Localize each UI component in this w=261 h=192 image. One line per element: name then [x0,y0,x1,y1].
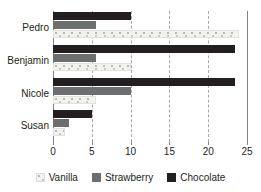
category-label-nicole: Nicole [0,88,49,99]
bar-groups [53,11,247,142]
legend-item-strawberry[interactable]: Strawberry [92,172,153,183]
tick-mark-15 [169,142,170,145]
category-label-susan: Susan [0,120,49,131]
category-label-benjamin: Benjamin [0,55,49,66]
strawberry-swatch [92,173,101,182]
tick-label-5: 5 [89,146,95,157]
bar-chocolate-benjamin[interactable] [53,45,235,53]
vanilla-swatch [36,173,45,182]
tick-mark-5 [92,142,93,145]
legend-item-chocolate[interactable]: Chocolate [167,172,225,183]
bar-group [53,45,247,74]
legend-label-vanilla: Vanilla [49,172,78,183]
legend-label-strawberry: Strawberry [105,172,153,183]
bar-chocolate-nicole[interactable] [53,78,235,86]
tick-mark-0 [53,142,54,145]
tick-label-0: 0 [50,146,56,157]
bar-strawberry-susan[interactable] [53,119,69,127]
bar-vanilla-pedro[interactable] [53,30,239,38]
bar-chocolate-susan[interactable] [53,110,92,118]
chart-legend: VanillaStrawberryChocolate [0,168,261,186]
legend-label-chocolate: Chocolate [180,172,225,183]
bar-strawberry-pedro[interactable] [53,21,96,29]
bar-strawberry-benjamin[interactable] [53,54,96,62]
bar-chocolate-pedro[interactable] [53,12,131,20]
tick-mark-25 [247,142,248,145]
bar-vanilla-benjamin[interactable] [53,63,131,71]
bar-group [53,78,247,107]
bar-group [53,110,247,139]
tick-label-20: 20 [203,146,214,157]
gridline-25 [247,11,248,142]
bar-group [53,12,247,41]
bar-vanilla-nicole[interactable] [53,96,96,104]
category-axis: PedroBenjaminNicoleSusan [0,11,49,142]
category-label-pedro: Pedro [0,22,49,33]
bar-vanilla-susan[interactable] [53,128,65,136]
plot-area [53,11,247,142]
tick-mark-20 [208,142,209,145]
tick-label-15: 15 [164,146,175,157]
tick-label-25: 25 [241,146,252,157]
chocolate-swatch [167,173,176,182]
tick-mark-10 [131,142,132,145]
legend-item-vanilla[interactable]: Vanilla [36,172,78,183]
bar-chart: PedroBenjaminNicoleSusan 0510152025 Vani… [0,0,261,192]
value-axis: 0510152025 [53,142,247,160]
bar-strawberry-nicole[interactable] [53,87,131,95]
tick-label-10: 10 [125,146,136,157]
